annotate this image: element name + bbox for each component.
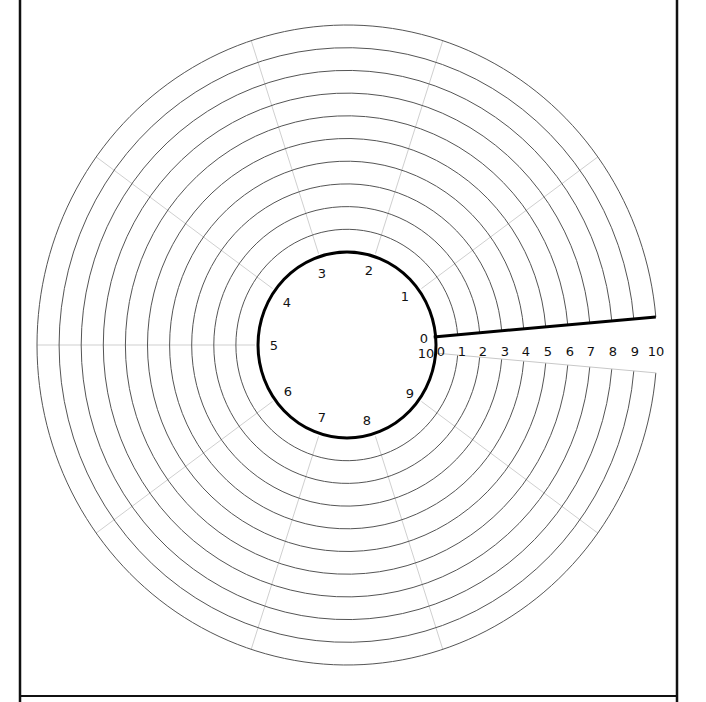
spoke-line xyxy=(251,436,318,649)
radial-label: 5 xyxy=(544,344,552,359)
radial-label: 6 xyxy=(566,344,574,359)
radial-label: 10 xyxy=(648,344,665,359)
radial-label: 8 xyxy=(609,344,617,359)
circle-label: 6 xyxy=(284,384,292,399)
circle-label: 5 xyxy=(270,338,278,353)
radial-label: 9 xyxy=(631,344,639,359)
circle-label: 10 xyxy=(418,346,435,361)
radial-label: 3 xyxy=(501,344,509,359)
radial-spokes xyxy=(37,41,598,650)
circle-label: 1 xyxy=(401,289,409,304)
radial-label: 1 xyxy=(458,344,466,359)
radial-label: 4 xyxy=(522,344,530,359)
circle-label: 4 xyxy=(283,295,291,310)
polar-grid-figure: 010123456789 012345678910 xyxy=(0,0,706,702)
circle-label: 9 xyxy=(406,386,414,401)
radial-label: 2 xyxy=(479,344,487,359)
circle-label: 8 xyxy=(363,413,371,428)
radial-label: 7 xyxy=(587,344,595,359)
circle-label: 3 xyxy=(318,266,326,281)
inner-circle xyxy=(258,252,436,438)
circle-tick-labels: 010123456789 xyxy=(270,263,434,428)
polar-grid-canvas: 010123456789 012345678910 xyxy=(0,0,706,702)
radial-label: 0 xyxy=(437,344,445,359)
circle-label: 2 xyxy=(365,263,373,278)
circle-label: 0 xyxy=(420,331,428,346)
circle-label: 7 xyxy=(318,410,326,425)
spoke-line xyxy=(251,41,318,254)
